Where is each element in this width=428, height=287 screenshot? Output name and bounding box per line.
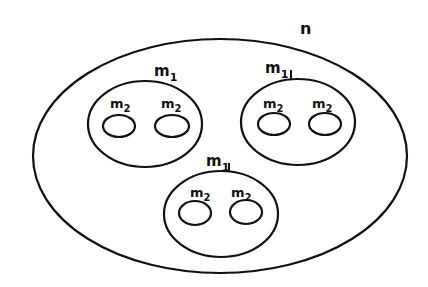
group-1-child-2-label: m2 (161, 96, 182, 114)
nested-sets-diagram: n m1 m2 m2 m1 m2 m2 m1 m2 m2 (0, 0, 428, 287)
group-1-ellipse (88, 81, 202, 167)
group-3-child-2-ellipse (230, 200, 262, 224)
group-3-child-1-ellipse (179, 201, 211, 225)
group-1-child-1-ellipse (103, 115, 135, 137)
group-2-child-1-ellipse (258, 113, 290, 135)
group-2-child-2-ellipse (309, 113, 341, 135)
group-1-child-1-label: m2 (110, 96, 131, 114)
group-2-label: m1 (265, 59, 288, 81)
group-1-label: m1 (154, 62, 177, 84)
group-1-child-2-ellipse (155, 115, 189, 137)
group-2-child-2-label: m2 (312, 96, 333, 114)
group-2-child-1-label: m2 (263, 96, 284, 114)
label-n: n (300, 19, 311, 38)
